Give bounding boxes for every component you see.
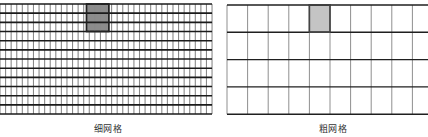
fine-grid-caption: 细网格 xyxy=(78,122,138,135)
coarse-grid-panel: 粗网格 xyxy=(214,0,428,137)
coarse-grid-caption: 粗网格 xyxy=(303,122,363,135)
fine-grid xyxy=(0,0,214,118)
shaded-cell xyxy=(86,4,108,32)
fine-grid-panel: 细网格 xyxy=(0,0,214,137)
shaded-cell xyxy=(309,5,330,32)
coarse-grid xyxy=(214,0,428,118)
